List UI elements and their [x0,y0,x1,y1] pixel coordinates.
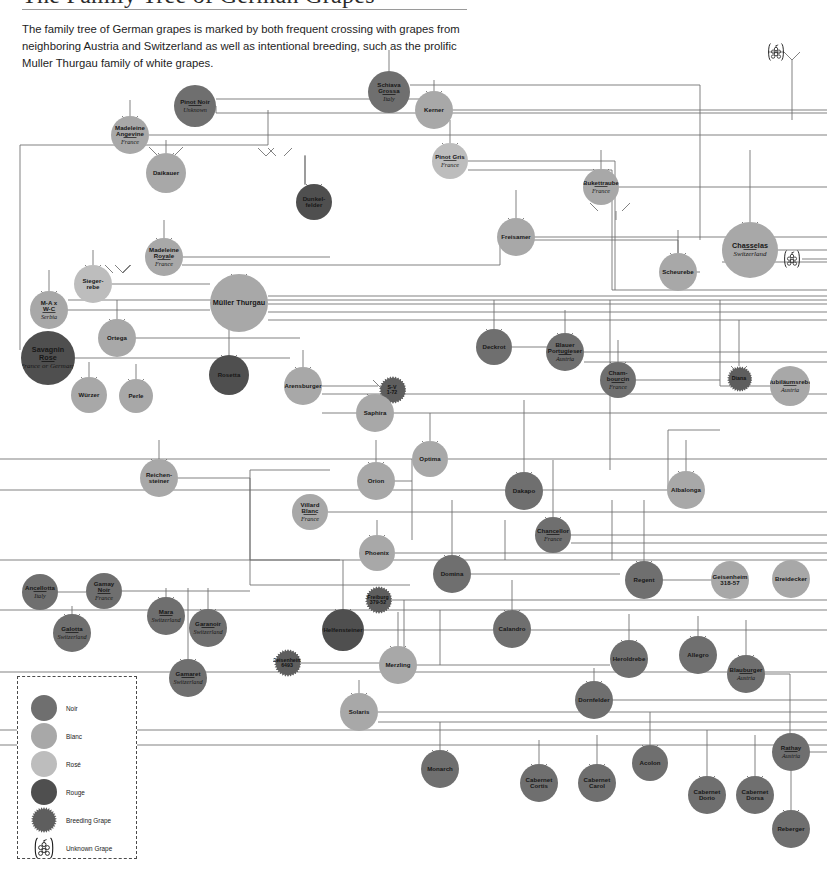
grape-node-madeleine-royale[interactable]: Madeleine RoyaleFrance [145,238,183,276]
grape-node-chasselas[interactable]: ChasselasSwitzerland [722,222,778,278]
grape-node-arensburger[interactable]: Arensburger [284,367,322,405]
grape-origin: Italy [382,96,395,102]
grape-node-blauer-portugieser[interactable]: Blauer PortugieserAustria [546,333,584,371]
grape-name: Geisenheim 6493 [273,658,301,669]
grape-node-dakapo[interactable]: Dakapo [505,472,543,510]
legend-item-noir: Noir [31,695,78,721]
grape-origin: France [94,595,114,601]
grape-name: S-V 1-72 [385,385,400,396]
grape-node-dornfelder[interactable]: Dornfelder [575,681,613,719]
grape-node-cabernet-cortis[interactable]: Cabernet Cortis [520,764,558,802]
grape-node-schiava-grossa[interactable]: Schiava GrossaItaly [368,71,410,113]
grape-node-madeleine-angevine[interactable]: Madeleine AngevineFrance [111,116,149,154]
grape-name: Villard Blanc [299,502,322,514]
grape-node-calandro[interactable]: Calandro [493,610,531,648]
grape-family-tree-page: The Family Tree of German Grapes The fam… [0,0,827,873]
grape-name: Merzling [383,662,412,668]
grape-node-freiburg-379-52[interactable]: Freiburg 379-52 [364,586,392,614]
grape-node-freisamer[interactable]: Freisamer [497,218,535,256]
grape-node-mara[interactable]: MaraSwitzerland [147,597,185,635]
grape-node-orion[interactable]: Orion [357,462,395,500]
grape-name: Blauer Portugieser [546,342,584,354]
grape-node-geisenheim-318-57[interactable]: Geisenheim 318-57 [711,561,749,599]
grape-origin: Italy [33,593,46,599]
grape-node-solaris[interactable]: Solaris [340,693,378,731]
grape-name: Cham- bourcin [605,370,632,382]
grape-node-blauburger[interactable]: BlauburgerAustria [727,655,765,693]
legend-item-rose: Rosé [31,751,81,777]
legend-swatch-breeding [31,807,57,833]
grape-origin: Austria [781,753,801,759]
grape-node-ma-wc[interactable]: M-A x W-CSerbia [30,291,68,329]
grape-node-optima[interactable]: Optima [412,441,448,477]
grape-node-rathay[interactable]: RathayAustria [772,733,810,771]
grape-name: Dornfelder [576,697,611,703]
grape-node-jubilaeumsrebe[interactable]: JubiläumsrebeAustria [770,366,810,406]
grape-node-wuerzer[interactable]: Würzer [71,377,107,413]
grape-node-reichensteiner[interactable]: Reichen- steiner [140,459,178,497]
grape-node-rosetta[interactable]: Rosetta [209,355,249,395]
grape-node-kerner[interactable]: Kerner [415,91,453,129]
grape-node-helfensteiner[interactable]: Helfensteiner [322,609,364,651]
grape-node-daikauer[interactable]: Daikauer [146,153,186,193]
grape-origin: Austria [555,356,575,362]
grape-node-diana[interactable]: Diana [726,366,752,392]
legend-swatch-noir [31,695,57,721]
grape-node-chambourcin[interactable]: Cham- bourcinFrance [600,362,636,398]
legend-label: Blanc [66,733,82,740]
grape-origin: France [440,162,460,168]
grape-name: Optima [417,456,442,462]
grape-node-galotta[interactable]: GalottaSwitzerland [53,614,91,652]
grape-node-saphira[interactable]: Saphira [356,394,394,432]
grape-node-siegerrebe[interactable]: Sieger- rebe [74,265,112,303]
grape-origin: Austria [736,675,756,681]
grape-name: Gamay Noir [86,581,122,593]
grape-node-deckrot[interactable]: Deckrot [476,329,512,365]
grape-name: Geisenheim 318-57 [711,574,749,586]
legend-label: Unknown Grape [66,845,112,852]
grape-node-regent[interactable]: Regent [625,561,663,599]
grape-node-villard-blanc[interactable]: Villard BlancFrance [292,494,328,530]
grape-node-perle[interactable]: Perle [119,379,153,413]
grape-node-cabernet-carol[interactable]: Cabernet Carol [578,764,616,802]
grape-node-chancellor[interactable]: ChancellorFrance [535,517,571,553]
grape-name: Chasselas [730,242,770,249]
grape-node-monarch[interactable]: Monarch [421,750,459,788]
grape-node-breidecker[interactable]: Breidecker [772,560,810,598]
grape-node-cabernet-dorio[interactable]: Cabernet Dorio [688,776,726,814]
grape-node-bukettraube[interactable]: BukettraubeFrance [583,169,619,205]
grape-node-gamaret[interactable]: GamaretSwitzerland [169,659,207,697]
legend-swatch-blanc [31,723,57,749]
grape-name: Würzer [77,392,102,398]
grape-node-phoenix[interactable]: Phoenix [359,535,395,571]
grape-name: Albalonga [669,487,703,493]
grape-node-pinot-gris[interactable]: Pinot GrisFrance [432,143,468,179]
grape-node-pinot-noir[interactable]: Pinot NoirUnknown [174,85,216,127]
grape-node-allegro[interactable]: Allegro [679,636,717,674]
grape-name: Calandro [497,626,528,632]
grape-node-albalonga[interactable]: Albalonga [667,471,705,509]
grape-name: Freisamer [499,234,533,240]
grape-name: Phoenix [363,550,391,556]
grape-origin: Unknown [182,107,208,113]
grape-node-ancellotta[interactable]: AncellottaItaly [22,574,58,610]
grape-node-heroldrebe[interactable]: Heroldrebe [610,640,648,678]
grape-name: Allegro [685,652,710,658]
grape-name: Schiava Grossa [375,82,402,94]
grape-node-scheurebe[interactable]: Scheurebe [659,253,697,291]
grape-name: Dunkel- felder [301,196,328,208]
grape-node-reberger[interactable]: Reberger [772,810,810,848]
grape-node-garanoir[interactable]: GaranoirSwitzerland [189,609,227,647]
grape-node-geisenheim-6493[interactable]: Geisenheim 6493 [273,649,301,677]
grape-node-dunkelfelder[interactable]: Dunkel- felder [296,184,332,220]
grape-node-domina[interactable]: Domina [433,555,471,593]
grape-node-merzling[interactable]: Merzling [379,646,417,684]
grape-node-ortega[interactable]: Ortega [98,319,136,357]
grape-node-acolon[interactable]: Acolon [632,745,668,781]
grape-name: Orion [366,478,387,484]
grape-node-gamay-noir[interactable]: Gamay NoirFrance [86,573,122,609]
grape-node-mueller-thurgau[interactable]: Müller Thurgau [210,274,268,332]
grape-node-cabernet-dorsa[interactable]: Cabernet Dorsa [736,776,774,814]
grape-node-savagnin-rose[interactable]: Savagnin RoseFrance or Germany [21,331,75,385]
legend-item-breed: Breeding Grape [31,807,111,833]
